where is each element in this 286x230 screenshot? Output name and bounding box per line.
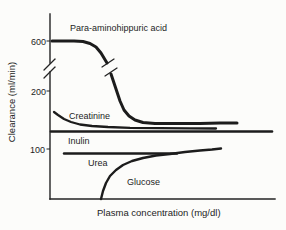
curve-para-aminohippuric-acid-lower — [111, 74, 237, 124]
y-tick-label: 200 — [31, 87, 46, 97]
label-inulin: Inulin — [68, 136, 90, 146]
label-para-aminohippuric-acid: Para-aminohippuric acid — [70, 23, 167, 33]
y-tick-label: 100 — [30, 145, 45, 155]
label-glucose: Glucose — [127, 177, 160, 187]
clearance-vs-plasma-concentration-chart: 600200100Para-aminohippuric acidCreatini… — [0, 0, 286, 230]
curve-glucose — [101, 149, 221, 200]
y-tick-label: 600 — [31, 37, 46, 47]
label-urea: Urea — [88, 158, 108, 168]
x-axis-label: Plasma concentration (mg/dl) — [97, 207, 221, 218]
y-axis-label: Clearance (ml/min) — [6, 62, 17, 142]
curve-para-aminohippuric-acid-upper — [52, 41, 107, 63]
label-creatinine: Creatinine — [69, 111, 110, 121]
renal-clearance-figure: 600200100Para-aminohippuric acidCreatini… — [0, 0, 286, 230]
